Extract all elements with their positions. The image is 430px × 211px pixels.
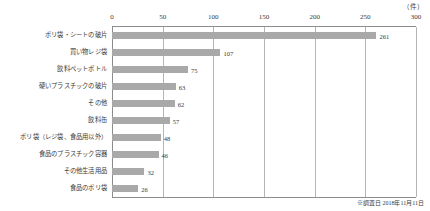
bar-value-label: 63	[179, 83, 186, 90]
bar-value-label: 48	[164, 134, 171, 141]
bar-row: 62	[112, 95, 416, 112]
bar-row: 46	[112, 146, 416, 163]
category-label: その他	[88, 94, 107, 111]
bar-row: 57	[112, 112, 416, 129]
bar-rows: 2611077563625748463226	[112, 27, 416, 197]
bar: 107	[112, 49, 220, 56]
gridline	[416, 27, 417, 197]
x-axis-tick-label: 0	[110, 13, 114, 21]
category-label: 飲料缶	[88, 111, 107, 128]
bar-row: 261	[112, 27, 416, 44]
axis-unit-label: （件）	[403, 1, 424, 11]
category-label: 買い物レジ袋	[70, 43, 107, 60]
bar: 261	[112, 32, 376, 39]
category-label: ポリ袋（レジ袋、食品用以外）	[20, 128, 107, 145]
bar-row: 26	[112, 180, 416, 197]
bar-row: 75	[112, 61, 416, 78]
category-label: 食品のプラスチック容器	[39, 145, 107, 162]
x-axis-tick-label: 250	[360, 13, 371, 21]
bar: 75	[112, 66, 188, 73]
bar: 62	[112, 100, 175, 107]
category-label: ポリ袋・シートの破片	[45, 26, 107, 43]
bar: 26	[112, 185, 138, 192]
category-label: 食品のポリ袋	[70, 179, 107, 196]
bar-row: 48	[112, 129, 416, 146]
bar-value-label: 107	[223, 49, 233, 56]
bar: 63	[112, 83, 176, 90]
bar-value-label: 26	[141, 185, 148, 192]
bar-value-label: 62	[178, 100, 185, 107]
x-axis-tick-label: 100	[208, 13, 219, 21]
category-label: その他生活用品	[64, 162, 107, 179]
x-axis-tick-label: 150	[259, 13, 270, 21]
x-axis-tick-label: 200	[309, 13, 320, 21]
bar-chart: （件） 050100150200250300 ポリ袋・シートの破片買い物レジ袋飲…	[0, 0, 430, 211]
bar-row: 107	[112, 44, 416, 61]
bar: 32	[112, 168, 144, 175]
bar-row: 32	[112, 163, 416, 180]
bar-value-label: 32	[147, 168, 154, 175]
bar-value-label: 261	[379, 32, 389, 39]
category-label: 硬いプラスチックの破片	[39, 77, 107, 94]
bar-value-label: 46	[162, 151, 169, 158]
bar: 48	[112, 134, 161, 141]
bar-row: 63	[112, 78, 416, 95]
bar-value-label: 57	[173, 117, 180, 124]
bar: 57	[112, 117, 170, 124]
survey-date-footnote: ※調査日 2018年11月11日	[357, 198, 424, 207]
category-label: 飲料ペットボトル	[57, 60, 107, 77]
bar-value-label: 75	[191, 66, 198, 73]
category-axis-labels: ポリ袋・シートの破片買い物レジ袋飲料ペットボトル硬いプラスチックの破片その他飲料…	[0, 26, 110, 196]
bar: 46	[112, 151, 159, 158]
x-axis-tick-label: 300	[411, 13, 422, 21]
plot-area: 2611077563625748463226	[112, 26, 416, 198]
x-axis-top: 050100150200250300	[112, 13, 416, 25]
x-axis-tick-label: 50	[159, 13, 166, 21]
